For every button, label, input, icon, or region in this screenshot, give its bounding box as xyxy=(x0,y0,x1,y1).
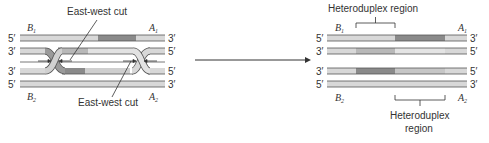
label-b1: B1 xyxy=(335,22,344,34)
end-label: 5′ xyxy=(470,46,478,57)
label-a2: A2 xyxy=(457,92,467,104)
end-label: 5′ xyxy=(168,46,176,57)
end-label: 3′ xyxy=(316,46,324,57)
heteroduplex-label-bottom-1: Heteroduplex xyxy=(390,110,449,121)
end-label: 5′ xyxy=(8,79,16,90)
end-label: 5′ xyxy=(316,79,324,90)
label-b2: B2 xyxy=(27,91,36,103)
heteroduplex-label-bottom-2: region xyxy=(405,123,433,134)
holliday-junction-diagram: East-west cut East-west cut B1 A1 B2 A2 … xyxy=(0,0,489,143)
east-west-cut-label-top: East-west cut xyxy=(67,6,127,17)
end-label: 3′ xyxy=(168,79,176,90)
end-label: 3′ xyxy=(168,33,176,44)
end-label: 3′ xyxy=(8,66,16,77)
label-b1: B1 xyxy=(27,22,36,34)
end-label: 5′ xyxy=(316,33,324,44)
end-label: 3′ xyxy=(8,46,16,57)
label-a1: A1 xyxy=(457,22,467,34)
heteroduplex-label-top: Heteroduplex region xyxy=(328,3,418,14)
east-west-cut-label-bottom: East-west cut xyxy=(78,97,138,108)
end-label: 3′ xyxy=(470,33,478,44)
end-label: 5′ xyxy=(470,66,478,77)
end-label: 3′ xyxy=(316,66,324,77)
label-a2: A2 xyxy=(148,91,158,103)
left-panel: East-west cut East-west cut B1 A1 B2 A2 … xyxy=(8,6,176,108)
right-panel: Heteroduplex region Heteroduplex region … xyxy=(316,3,478,134)
end-label: 5′ xyxy=(8,33,16,44)
label-b2: B2 xyxy=(335,92,344,104)
end-label: 3′ xyxy=(470,79,478,90)
process-arrow-icon xyxy=(195,57,311,63)
label-a1: A1 xyxy=(148,22,158,34)
end-label: 5′ xyxy=(168,66,176,77)
